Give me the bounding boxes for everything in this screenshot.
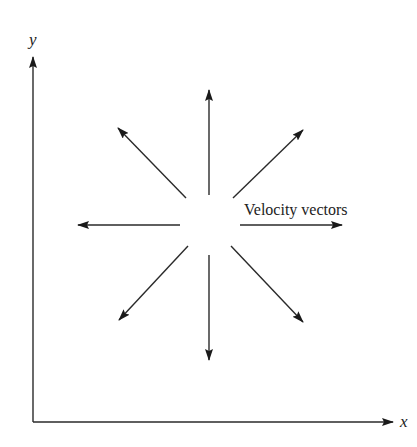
axes: y x <box>27 30 408 431</box>
velocity-vectors <box>78 90 342 360</box>
velocity-vector-up-left-arrow-icon <box>118 128 186 198</box>
velocity-vector-up-right-arrow-icon <box>233 130 303 198</box>
y-axis-label: y <box>27 30 37 49</box>
velocity-vector-down-left-arrow-icon <box>119 246 188 320</box>
velocity-vectors-diagram: y x Velocity vectors <box>0 0 417 447</box>
x-axis-label: x <box>399 412 408 431</box>
velocity-vectors-label: Velocity vectors <box>244 201 348 219</box>
velocity-vector-down-right-arrow-icon <box>231 246 303 322</box>
